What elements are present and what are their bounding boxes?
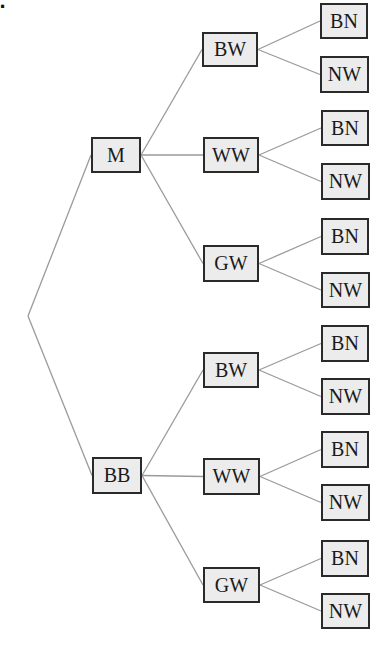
node-m-gw-nw: NW — [321, 272, 370, 308]
edge-m-bw-bn — [258, 21, 320, 50]
tree-edges — [0, 0, 371, 645]
node-bb-gw-bn: BN — [321, 540, 369, 577]
node-bb-ww-bn: BN — [321, 431, 369, 468]
edge-bb-ww — [142, 476, 203, 477]
edge-bb — [28, 316, 92, 476]
edge-bb-gw-bn — [260, 559, 321, 586]
node-bb-bw-nw: NW — [321, 378, 370, 415]
edge-m — [28, 155, 91, 316]
node-bb-bw-bn: BN — [321, 325, 369, 362]
node-m-bw: BW — [202, 32, 258, 67]
node-m-bw-nw: NW — [320, 56, 369, 93]
edge-bb-gw — [142, 476, 203, 586]
edge-m-bw-nw — [258, 50, 320, 75]
node-m-gw: GW — [203, 245, 259, 282]
node-bb-ww: WW — [203, 458, 260, 495]
part-label: b. — [0, 0, 6, 14]
node-m-ww: WW — [203, 137, 259, 173]
edge-m-gw — [141, 155, 203, 264]
edge-m-ww-bn — [259, 128, 321, 155]
node-bb: BB — [92, 457, 142, 494]
edge-bb-bw-nw — [259, 370, 321, 397]
node-bb-gw-nw: NW — [321, 593, 370, 629]
node-m-ww-nw: NW — [321, 163, 370, 200]
edge-bb-ww-nw — [260, 477, 321, 503]
node-m-ww-bn: BN — [321, 110, 369, 146]
node-bb-gw: GW — [203, 567, 260, 603]
edge-m-bw — [141, 50, 202, 156]
edge-bb-bw — [142, 370, 203, 476]
edge-m-ww-nw — [259, 155, 321, 182]
node-m: M — [91, 137, 141, 173]
node-bb-ww-nw: NW — [321, 484, 370, 521]
edge-bb-bw-bn — [259, 344, 321, 371]
edge-bb-gw-nw — [260, 585, 321, 611]
node-m-bw-bn: BN — [320, 3, 368, 39]
node-m-gw-bn: BN — [321, 218, 369, 255]
edge-bb-ww-bn — [260, 450, 321, 477]
edge-m-gw-nw — [259, 264, 321, 291]
edge-m-gw-bn — [259, 237, 321, 264]
node-bb-bw: BW — [203, 352, 259, 388]
